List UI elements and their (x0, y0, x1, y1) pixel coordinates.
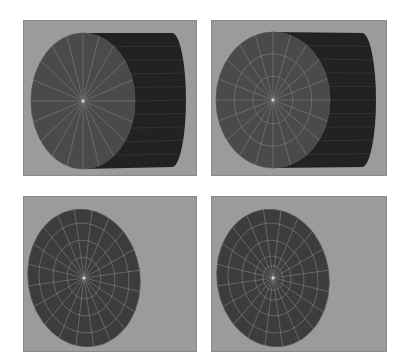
cylinder-render (212, 21, 388, 177)
viewport-panel-bottom-left (23, 196, 197, 352)
cylinder-render (24, 21, 198, 177)
cylinder-cap-face (216, 32, 330, 168)
cylinder-cap-face (212, 202, 338, 353)
cylinder-cap-face (31, 33, 135, 169)
center-vertex (82, 100, 85, 103)
viewport-panel-top-right (211, 20, 387, 176)
cylinder-render (24, 197, 198, 353)
viewport-panel-top-left (23, 20, 197, 176)
cylinder-cap-face (24, 202, 149, 353)
cylinder-render (212, 197, 388, 353)
center-vertex (272, 99, 275, 102)
viewport-panel-bottom-right (211, 196, 387, 352)
